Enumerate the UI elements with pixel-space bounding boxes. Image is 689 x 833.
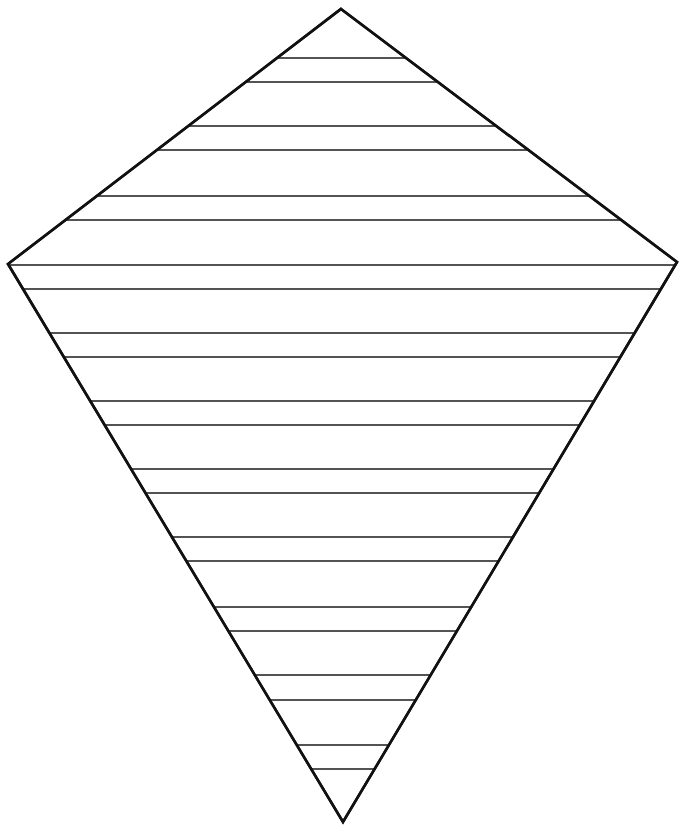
kite-template	[0, 0, 689, 833]
